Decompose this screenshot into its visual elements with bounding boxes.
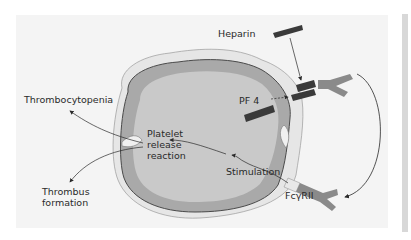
antibody-top-icon	[318, 74, 353, 97]
stimulation-label: Stimulation	[226, 166, 280, 177]
thrombus-label-line1: Thrombus	[41, 186, 90, 197]
platelet-diagram: Heparin PF 4 FcγRII Stimulation Platelet…	[0, 0, 411, 240]
recirculation-arrow	[345, 74, 380, 197]
platelet-label-line2: release	[147, 139, 182, 150]
platelet-label-line3: reaction	[147, 150, 186, 161]
fc-receptor-label: FcγRII	[285, 190, 314, 201]
platelet-label-line1: Platelet	[147, 128, 183, 139]
heparin-icon	[273, 25, 303, 38]
heparin-label: Heparin	[218, 28, 255, 39]
thrombocytopenia-label: Thrombocytopenia	[23, 94, 113, 105]
thrombus-label-line2: formation	[42, 197, 88, 208]
pf4-label: PF 4	[239, 95, 259, 106]
